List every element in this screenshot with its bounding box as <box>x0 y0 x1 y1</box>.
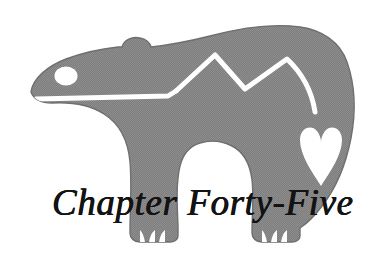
bear-illustration <box>0 0 371 267</box>
chapter-heading-illustration: Chapter Forty-Five <box>0 0 371 267</box>
bear-eye <box>55 67 78 86</box>
